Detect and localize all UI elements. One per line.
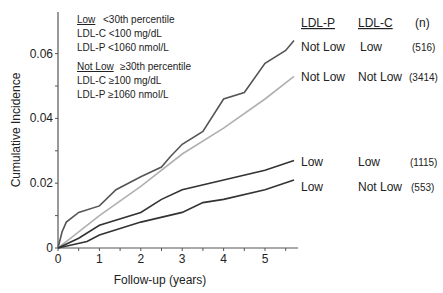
- row2-ldlp: Not Low: [301, 70, 345, 84]
- svg-text:3: 3: [179, 252, 186, 266]
- svg-text:5: 5: [262, 252, 269, 266]
- row3-ldlc: Low: [358, 155, 380, 169]
- y-ticks: 00.020.040.06: [30, 47, 58, 255]
- header-n: (n): [415, 16, 430, 30]
- row2-n: (3414): [409, 72, 438, 83]
- svg-text:0.02: 0.02: [30, 176, 54, 190]
- svg-text:0.04: 0.04: [30, 111, 54, 125]
- svg-text:0: 0: [55, 252, 62, 266]
- y-axis-label: Cumulative Incidence: [9, 72, 23, 187]
- svg-text:0: 0: [46, 241, 53, 255]
- svg-text:2: 2: [137, 252, 144, 266]
- row1-ldlp: Not Low: [301, 40, 345, 54]
- row3-ldlp: Low: [301, 155, 323, 169]
- notlow-ldlc: LDL-C ≥100 mg/dL: [77, 75, 162, 86]
- header-ldlc: LDL-C: [358, 16, 393, 30]
- low-ldlp: LDL-P <1060 nmol/L: [77, 42, 169, 53]
- group-table: LDL-P LDL-C (n) Not Low Low (516) Not Lo…: [301, 16, 438, 194]
- km-chart: 00.020.040.06 012345 Cumulative Incidenc…: [0, 0, 443, 293]
- row4-n: (553): [411, 182, 434, 193]
- row4-ldlc: Not Low: [358, 180, 402, 194]
- row3-n: (1115): [410, 157, 437, 168]
- notlow-desc: ≥30th percentile: [120, 61, 192, 72]
- notlow-title: Not Low: [77, 61, 114, 72]
- low-desc: <30th percentile: [103, 14, 175, 25]
- notlow-ldlp: LDL-P ≥1060 nmol/L: [77, 89, 169, 100]
- svg-text:4: 4: [220, 252, 227, 266]
- low-ldlc: LDL-C <100 mg/dL: [77, 28, 162, 39]
- x-axis-label: Follow-up (years): [114, 273, 207, 287]
- svg-text:0.06: 0.06: [30, 47, 54, 61]
- low-title: Low: [77, 14, 96, 25]
- row1-n: (516): [412, 42, 435, 53]
- header-ldlp: LDL-P: [301, 16, 335, 30]
- row2-ldlc: Not Low: [358, 70, 402, 84]
- x-ticks: 012345: [55, 248, 286, 266]
- criteria-legend: Low <30th percentile LDL-C <100 mg/dL LD…: [77, 14, 192, 100]
- row1-ldlc: Low: [360, 40, 382, 54]
- svg-text:1: 1: [96, 252, 103, 266]
- row4-ldlp: Low: [301, 180, 323, 194]
